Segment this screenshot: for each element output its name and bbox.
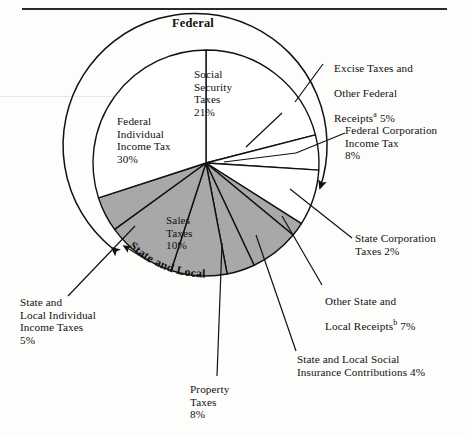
label-excise-taxes-other-federal: Excise Taxes and Other Federal Receiptsa… [334, 49, 464, 125]
label-sales-taxes: Sales Taxes 10% [166, 214, 226, 252]
federal-group-title: Federal [172, 16, 214, 31]
leader-state-local-individual [68, 226, 135, 296]
leader-excise-taxes [295, 64, 323, 102]
other-sl-line-2-post: 7% [397, 320, 415, 332]
label-property-taxes: Property Taxes 8% [190, 383, 280, 421]
excise-line-2: Other Federal [334, 87, 397, 99]
label-social-security-taxes: Social Security Taxes 21% [194, 68, 232, 118]
other-sl-line-1: Other State and [325, 295, 396, 307]
leader-other-state-local [282, 216, 322, 285]
excise-line-3-pre: Receipts [334, 112, 373, 124]
label-state-local-individual-income-taxes: State and Local Individual Income Taxes … [20, 296, 140, 346]
other-sl-line-2-pre: Local Receipts [325, 320, 393, 332]
label-state-corporation-taxes: State Corporation Taxes 2% [355, 232, 470, 257]
label-federal-individual-income-tax: Federal Individual Income Tax 30% [117, 115, 171, 165]
excise-line-3-post: 5% [377, 112, 395, 124]
label-state-local-social-insurance: State and Local Social Insurance Contrib… [297, 353, 470, 378]
label-other-state-local-receipts: Other State and Local Receiptsb 7% [325, 282, 470, 332]
tax-receipts-pie-figure: State and Local Federal Social Security … [0, 0, 470, 435]
excise-line-1: Excise Taxes and [334, 62, 413, 74]
label-federal-corporation-income-tax: Federal Corporation Income Tax 8% [345, 124, 470, 162]
